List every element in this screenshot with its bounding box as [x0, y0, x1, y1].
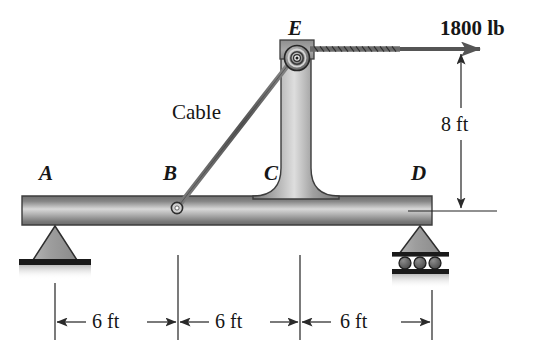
- beam-member: [22, 196, 432, 225]
- beam-body: [22, 196, 432, 225]
- dimension-label-6ft-cd: 6 ft: [340, 311, 367, 331]
- cable-anchor-pin-b: [171, 202, 182, 213]
- point-label-a: A: [39, 163, 53, 184]
- force-magnitude-label: 1800 lb: [440, 18, 505, 39]
- cable-label: Cable: [172, 102, 221, 123]
- dimension-label-8ft: 8 ft: [441, 114, 468, 134]
- dimension-label-6ft-ab: 6 ft: [92, 311, 119, 331]
- roller-wheel-1: [399, 257, 411, 269]
- point-label-d: D: [411, 163, 426, 184]
- point-label-b: B: [163, 163, 177, 184]
- roller-top-bar: [392, 252, 449, 257]
- ground-hatch-a: [19, 265, 91, 279]
- point-label-e: E: [288, 18, 302, 39]
- roller-wheel-3: [429, 257, 441, 269]
- roller-support-d: [392, 226, 449, 288]
- ground-bar-a: [19, 259, 91, 265]
- pin-support-a: [19, 226, 91, 279]
- statics-diagram: A B C D E Cable 1800 lb 8 ft 6 ft 6 ft 6…: [0, 0, 541, 356]
- roller-wheel-2: [414, 257, 426, 269]
- pulley-e: [285, 46, 310, 71]
- dimension-label-6ft-bc: 6 ft: [215, 311, 242, 331]
- force-arrow-1800lb: [310, 46, 480, 51]
- ground-bar-d: [392, 269, 449, 274]
- roller-support-triangle: [399, 226, 441, 254]
- ground-hatch-d: [392, 274, 449, 288]
- pin-support-triangle: [33, 226, 77, 260]
- point-label-c: C: [264, 163, 278, 184]
